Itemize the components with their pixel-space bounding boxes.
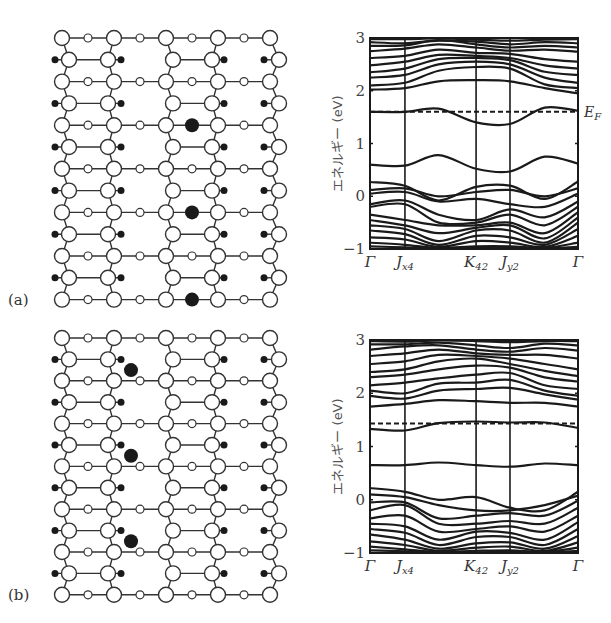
host-atom-large [107,118,122,133]
host-atom-large [272,395,287,410]
y-tick-label: 0 [355,491,365,509]
host-atom-large [101,438,116,453]
adsorbed-atom [261,356,268,363]
adsorbed-atom [261,231,268,238]
host-atom-small [84,591,92,599]
host-atom-small [240,334,248,342]
adsorbed-atom [52,56,59,63]
adsorbed-atom [118,570,125,577]
host-atom-large [55,373,70,388]
host-atom-large [272,566,287,581]
host-atom-large [166,270,181,285]
host-atom-large [107,416,122,431]
host-atom-small [240,420,248,428]
x-tick-subscript: 42 [474,565,488,576]
band-band-m1 [370,463,578,467]
host-atom-large [159,373,174,388]
dopant-atom [185,205,199,219]
band-structure-chart-a: EF−10123ΓJx4K42Jy2Γエネルギー (eV) [330,29,602,272]
host-atom-small [84,505,92,513]
band-band-f10 [370,80,578,93]
host-atom-large [101,227,116,242]
host-atom-large [211,331,226,346]
host-atom-large [107,373,122,388]
host-atom-small [136,165,144,173]
adsorbed-atom [52,144,59,151]
adsorbed-atom [52,187,59,194]
host-atom-large [62,523,77,538]
host-atom-large [272,480,287,495]
host-atom-large [166,183,181,198]
adsorbed-atom [221,231,228,238]
x-tick-subscript: 42 [474,261,488,272]
host-atom-large [55,31,70,46]
host-atom-small [188,334,196,342]
host-atom-large [107,74,122,89]
host-atom-large [211,249,226,264]
host-atom-small [188,462,196,470]
host-atom-large [263,118,278,133]
dopant-atom [124,449,138,463]
host-atom-large [211,74,226,89]
host-atom-large [159,459,174,474]
host-atom-small [136,252,144,260]
host-atom-large [166,523,181,538]
adsorbed-atom [221,399,228,406]
host-atom-large [159,292,174,307]
host-atom-large [211,161,226,176]
host-atom-large [101,352,116,367]
y-tick-label: 1 [355,438,365,456]
host-atom-large [205,566,220,581]
host-atom-small [136,208,144,216]
host-atom-large [272,523,287,538]
host-atom-large [55,118,70,133]
host-atom-small [136,121,144,129]
host-atom-large [55,416,70,431]
host-atom-small [240,377,248,385]
adsorbed-atom [221,356,228,363]
host-atom-large [159,416,174,431]
host-atom-large [166,438,181,453]
adsorbed-atom [261,484,268,491]
host-atom-small [188,591,196,599]
host-atom-small [240,548,248,556]
host-atom-small [188,420,196,428]
y-tick-label: 1 [355,135,365,153]
host-atom-small [84,78,92,86]
host-atom-large [211,292,226,307]
host-atom-small [188,34,196,42]
host-atom-small [84,208,92,216]
x-tick-label: Jy2 [498,557,519,576]
host-atom-large [263,331,278,346]
host-atom-large [55,161,70,176]
host-atom-large [55,205,70,220]
host-atom-large [101,140,116,155]
host-atom-large [263,205,278,220]
x-tick-label: Γ [572,253,584,271]
host-atom-small [84,165,92,173]
host-atom-large [107,331,122,346]
host-atom-small [136,420,144,428]
host-atom-small [84,548,92,556]
host-atom-large [62,438,77,453]
host-atom-large [263,74,278,89]
adsorbed-atom [118,527,125,534]
x-tick-subscript: y2 [506,565,519,576]
host-atom-large [101,480,116,495]
adsorbed-atom [261,100,268,107]
y-tick-label: −1 [343,544,365,562]
host-atom-large [263,545,278,560]
host-atom-large [205,352,220,367]
x-tick-label: K42 [463,557,488,576]
adsorbed-atom [221,56,228,63]
host-atom-small [240,208,248,216]
host-atom-large [159,545,174,560]
host-atom-large [62,395,77,410]
adsorbed-atom [261,274,268,281]
host-atom-large [55,331,70,346]
adsorbed-atom [261,56,268,63]
adsorbed-atom [118,56,125,63]
host-atom-large [101,270,116,285]
host-atom-large [107,161,122,176]
host-atom-large [62,270,77,285]
